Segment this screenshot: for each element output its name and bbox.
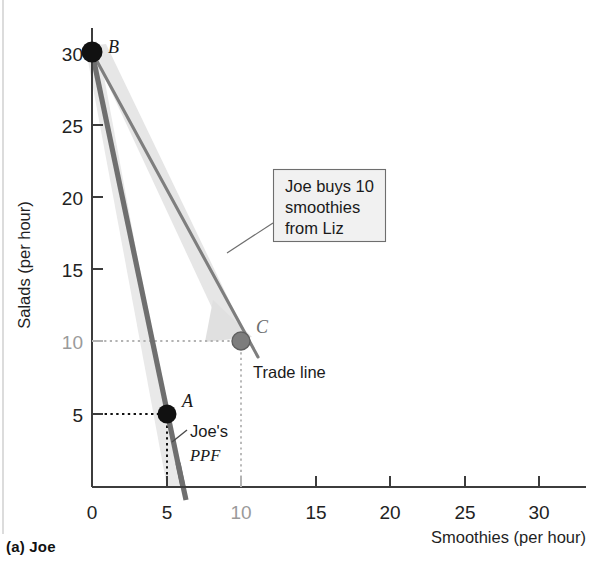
data-point-a[interactable]	[158, 405, 177, 424]
trade-line-label: Trade line	[253, 363, 326, 381]
y-tick-label-15: 15	[62, 260, 83, 281]
y-tick-label-20: 20	[62, 188, 83, 209]
ppf-label-line-2: PPF	[189, 446, 221, 465]
y-tick-label-10: 10	[62, 332, 83, 353]
x-tick-label-20: 20	[379, 502, 400, 523]
figure-root: 30 25 20 15 10 5 0 5 10 15 20 25 30 Sala…	[0, 0, 593, 564]
x-tick-label-0: 0	[87, 502, 98, 523]
y-axis-title: Salads (per hour)	[15, 201, 33, 328]
ppf-label-group: Joe's PPF	[172, 422, 228, 465]
figure-caption: (a) Joe	[6, 538, 56, 555]
x-tick-label-15: 15	[305, 502, 326, 523]
ppf-trade-chart: 30 25 20 15 10 5 0 5 10 15 20 25 30 Sala…	[0, 0, 593, 564]
x-tick-label-25: 25	[454, 502, 475, 523]
data-point-b[interactable]	[82, 42, 103, 63]
callout-line-2: smoothies	[285, 198, 360, 216]
y-tick-label-25: 25	[62, 116, 83, 137]
callout-joe-buys-smoothies[interactable]: Joe buys 10 smoothies from Liz	[227, 170, 386, 254]
data-point-b-label: B	[108, 37, 119, 57]
callout-leader-line	[227, 223, 273, 253]
data-point-c-label: C	[256, 317, 269, 337]
callout-line-3: from Liz	[285, 219, 344, 237]
x-tick-label-30: 30	[528, 502, 549, 523]
callout-line-1: Joe buys 10	[285, 177, 374, 195]
y-axis-ticks	[92, 125, 103, 414]
x-tick-label-10: 10	[230, 502, 251, 523]
ppf-label-line-1: Joe's	[190, 422, 228, 440]
x-axis-title: Smoothies (per hour)	[431, 528, 586, 546]
data-point-c[interactable]	[232, 332, 250, 350]
data-point-a-label: A	[181, 391, 194, 411]
x-tick-label-5: 5	[162, 502, 173, 523]
x-axis-ticks	[167, 476, 539, 487]
y-tick-label-5: 5	[72, 405, 83, 426]
y-tick-label-30: 30	[62, 44, 83, 65]
